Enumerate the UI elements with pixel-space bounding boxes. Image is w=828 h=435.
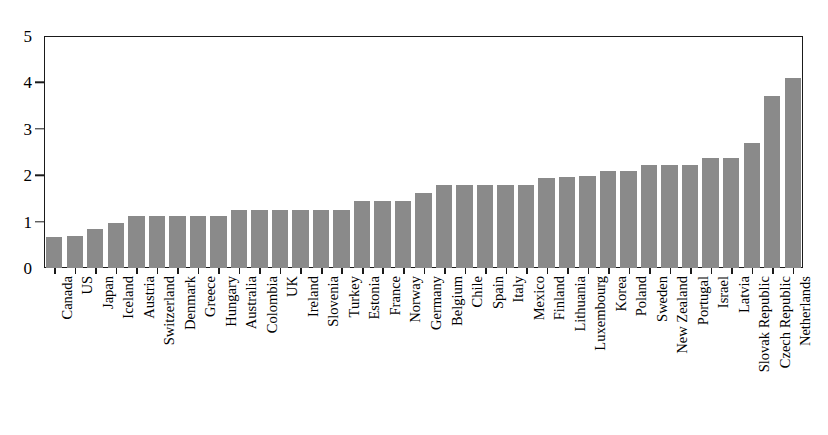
bar — [333, 210, 349, 268]
x-tick-mark — [341, 268, 343, 274]
x-tick-mark — [444, 268, 446, 274]
x-tick-label: Portugal — [696, 276, 711, 325]
x-tick-label: Colombia — [265, 276, 280, 333]
x-tick-label: Japan — [101, 276, 116, 309]
x-tick-label: Estonia — [367, 276, 382, 320]
bar — [456, 185, 472, 268]
x-tick-label: Luxembourg — [593, 276, 608, 351]
y-tick-mark — [35, 82, 44, 83]
y-tick-label: 5 — [24, 28, 33, 45]
x-tick-mark — [526, 268, 528, 274]
x-tick-mark — [157, 268, 159, 274]
bar — [661, 165, 677, 268]
bar — [169, 216, 185, 268]
x-tick-mark — [198, 268, 200, 274]
x-tick-label: Netherlands — [798, 276, 813, 346]
x-tick-mark — [382, 268, 384, 274]
x-tick-mark — [506, 268, 508, 274]
x-tick-label: Czech Republic — [778, 276, 793, 368]
x-tick-mark — [95, 268, 97, 274]
y-axis: 012345 — [0, 0, 44, 280]
bar — [785, 78, 801, 268]
x-tick-mark — [793, 268, 795, 274]
x-tick-mark — [772, 268, 774, 274]
bar — [395, 201, 411, 268]
bar — [723, 158, 739, 268]
bar — [292, 210, 308, 268]
x-tick-mark — [567, 268, 569, 274]
x-axis-labels: CanadaUSJapanIcelandAustriaSwitzerlandDe… — [44, 276, 803, 434]
x-tick-mark — [300, 268, 302, 274]
y-tick-label: 2 — [24, 167, 33, 184]
y-tick-mark — [35, 221, 44, 222]
y-tick-label: 3 — [24, 120, 33, 137]
x-tick-mark — [731, 268, 733, 274]
x-tick-mark — [321, 268, 323, 274]
bar — [210, 216, 226, 268]
x-tick-mark — [177, 268, 179, 274]
x-tick-label: Turkey — [347, 276, 362, 317]
x-tick-label: Italy — [511, 276, 526, 303]
x-tick-mark — [54, 268, 56, 274]
bar — [641, 165, 657, 268]
x-tick-mark — [465, 268, 467, 274]
x-tick-label: Iceland — [121, 276, 136, 319]
x-tick-label: Latvia — [737, 276, 752, 313]
bar — [231, 210, 247, 268]
x-tick-label: France — [388, 276, 403, 315]
x-tick-label: Slovak Republic — [757, 276, 772, 372]
bar — [128, 216, 144, 268]
x-tick-mark — [588, 268, 590, 274]
x-tick-label: Switzerland — [162, 276, 177, 345]
x-tick-mark — [752, 268, 754, 274]
x-tick-mark — [424, 268, 426, 274]
y-tick-label: 4 — [24, 74, 33, 91]
bar — [682, 165, 698, 268]
bar — [190, 216, 206, 268]
x-tick-label: Canada — [60, 276, 75, 319]
x-tick-mark — [75, 268, 77, 274]
x-tick-mark — [690, 268, 692, 274]
x-tick-mark — [608, 268, 610, 274]
x-tick-label: Spain — [491, 276, 506, 309]
x-tick-mark — [280, 268, 282, 274]
bar — [354, 201, 370, 268]
x-tick-mark — [136, 268, 138, 274]
bar — [46, 237, 62, 268]
bar — [477, 185, 493, 268]
x-tick-label: Hungary — [224, 276, 239, 327]
x-tick-mark — [259, 268, 261, 274]
bar — [272, 210, 288, 268]
bar-chart: 012345 CanadaUSJapanIcelandAustriaSwitze… — [0, 0, 828, 435]
bar — [538, 178, 554, 268]
x-tick-label: Norway — [408, 276, 423, 323]
x-tick-label: US — [80, 276, 95, 295]
x-tick-label: Belgium — [450, 276, 465, 326]
y-tick-label: 0 — [24, 260, 33, 277]
x-tick-label: Austria — [142, 276, 157, 319]
x-tick-label: Korea — [614, 276, 629, 311]
bar — [600, 171, 616, 268]
bar — [436, 185, 452, 268]
bar — [764, 96, 780, 268]
x-tick-label: UK — [285, 276, 300, 297]
bar — [251, 210, 267, 268]
x-tick-mark — [670, 268, 672, 274]
bar — [374, 201, 390, 268]
bar — [702, 158, 718, 268]
y-tick-label: 1 — [24, 213, 33, 230]
x-tick-mark — [116, 268, 118, 274]
bar — [579, 176, 595, 268]
x-tick-label: Australia — [244, 276, 259, 329]
bar — [497, 185, 513, 268]
x-tick-mark — [711, 268, 713, 274]
x-tick-label: Israel — [716, 276, 731, 308]
bar — [744, 143, 760, 268]
x-tick-mark — [218, 268, 220, 274]
x-tick-mark — [362, 268, 364, 274]
x-tick-mark — [629, 268, 631, 274]
x-tick-label: Mexico — [532, 276, 547, 320]
bar — [415, 193, 431, 268]
x-tick-mark — [239, 268, 241, 274]
x-tick-label: New Zealand — [675, 276, 690, 354]
